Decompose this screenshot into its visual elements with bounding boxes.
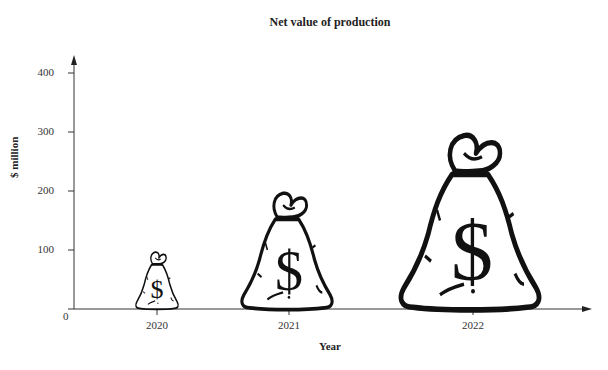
x-axis-arrow-icon [582, 306, 592, 312]
x-axis-label: Year [300, 340, 360, 352]
dollar-icon: $ [275, 240, 303, 302]
chart-title: Net value of production [200, 15, 460, 30]
chart-canvas: $ $ $ [0, 0, 608, 370]
x-tick-label: 2021 [264, 319, 314, 331]
y-tick-label: 200 [28, 184, 54, 196]
y-tick-label: 300 [28, 125, 54, 137]
x-tick-label: 2022 [448, 319, 498, 331]
origin-label: 0 [63, 310, 69, 322]
dollar-icon: $ [451, 205, 493, 298]
y-axis-label: $ million [8, 137, 20, 178]
y-tick-label: 400 [28, 66, 54, 78]
y-axis-arrow-icon [71, 55, 77, 65]
y-tick-label: 100 [28, 243, 54, 255]
x-tick-label: 2020 [132, 319, 182, 331]
dollar-icon: $ [151, 275, 164, 304]
